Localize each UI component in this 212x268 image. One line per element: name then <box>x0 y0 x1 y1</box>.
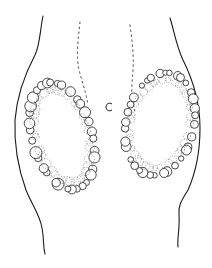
cell-bubble <box>57 81 65 89</box>
cell-bubble <box>130 93 139 102</box>
left-center-dotted-line <box>77 22 88 105</box>
cell-bubble <box>145 82 154 91</box>
cell-bubble <box>51 171 59 179</box>
cell-bubble <box>89 152 100 163</box>
cell-bubble <box>188 94 198 104</box>
cell-bubble <box>147 74 154 81</box>
cell-bubble <box>85 117 93 125</box>
cell-bubble <box>73 177 80 184</box>
cell-bubble <box>128 157 134 163</box>
cell-bubble <box>192 112 199 119</box>
cell-bubble <box>180 87 186 93</box>
left-body-outline <box>15 16 45 254</box>
illustration <box>0 0 212 268</box>
cell-bubble <box>188 133 196 141</box>
cell-bubble <box>127 130 134 137</box>
cell-bubble <box>90 135 97 142</box>
cell-bubble <box>54 87 62 95</box>
right-bubble-cluster <box>121 69 200 178</box>
cell-bubble <box>179 156 184 161</box>
cell-bubble <box>183 80 189 86</box>
cell-bubble <box>47 79 54 86</box>
cell-bubble <box>139 83 144 88</box>
cell-bubble <box>165 77 170 82</box>
cell-bubble <box>40 88 49 97</box>
cell-bubble <box>131 162 139 170</box>
cell-bubble <box>50 87 56 93</box>
cell-bubble <box>29 137 36 144</box>
cell-bubble <box>165 159 173 167</box>
left-bubble-cluster <box>24 78 100 194</box>
cell-bubble <box>190 120 198 128</box>
cell-bubble <box>121 137 130 146</box>
cell-bubble <box>177 74 185 82</box>
cell-bubble <box>65 186 71 192</box>
right-body-outline <box>170 18 200 247</box>
cell-bubble <box>30 147 42 159</box>
cell-bubble <box>175 82 181 88</box>
cell-bubble <box>167 70 173 76</box>
cell-bubble <box>182 145 192 155</box>
center-c-mark <box>106 103 112 111</box>
cell-bubble <box>24 118 35 129</box>
cell-bubble <box>127 101 134 108</box>
cell-bubble <box>52 179 60 187</box>
cell-bubble <box>58 89 65 96</box>
